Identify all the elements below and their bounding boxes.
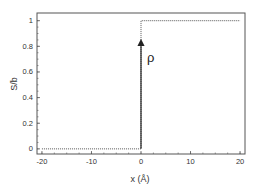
y-axis-label: S/b xyxy=(9,77,19,91)
y-tick-label: 0.4 xyxy=(23,93,33,102)
y-tick-label: 0.2 xyxy=(23,119,33,128)
chart: -20-100102000.20.40.60.81 ρ x (Å) S/b xyxy=(0,0,266,194)
x-tick-label: -20 xyxy=(37,157,48,166)
x-tick-label: 10 xyxy=(186,157,194,166)
annotation-label: ρ xyxy=(147,50,154,65)
y-tick-label: 0 xyxy=(29,144,33,153)
x-tick-label: 0 xyxy=(139,157,143,166)
x-tick-label: -10 xyxy=(86,157,97,166)
y-tick-label: 0.8 xyxy=(23,42,33,51)
x-axis-label: x (Å) xyxy=(131,174,150,184)
x-tick-label: 20 xyxy=(236,157,244,166)
y-tick-label: 0.6 xyxy=(23,67,33,76)
y-tick-label: 1 xyxy=(29,16,33,25)
